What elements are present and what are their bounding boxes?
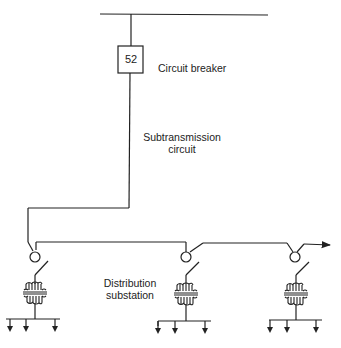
substation-label-line1: Distribution bbox=[96, 277, 164, 289]
distribution-substation-1 bbox=[6, 252, 60, 332]
distribution-substation-3 bbox=[267, 252, 322, 333]
one-line-diagram bbox=[0, 0, 341, 348]
circuit-breaker-label: Circuit breaker bbox=[158, 62, 226, 74]
subtransmission-label-line2: circuit bbox=[135, 143, 229, 155]
distribution-substation-label: Distribution substation bbox=[96, 277, 164, 301]
main-bus bbox=[100, 14, 268, 15]
subtransmission-label: Subtransmission circuit bbox=[135, 131, 229, 155]
substation-label-line2: substation bbox=[96, 289, 164, 301]
breaker-code: 52 bbox=[121, 53, 141, 65]
subtransmission-label-line1: Subtransmission bbox=[135, 131, 229, 143]
subtransmission-line bbox=[129, 73, 130, 208]
